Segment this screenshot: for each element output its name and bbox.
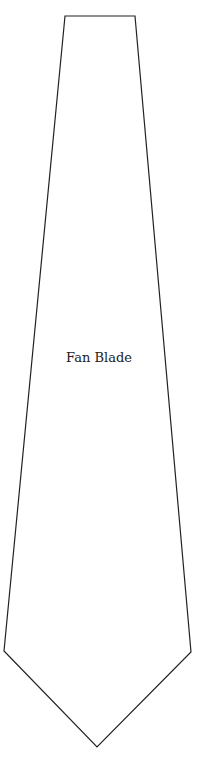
- fan-blade-diagram: Fan Blade: [0, 0, 208, 775]
- fan-blade-label: Fan Blade: [66, 350, 132, 365]
- fan-blade-outline: [4, 16, 191, 747]
